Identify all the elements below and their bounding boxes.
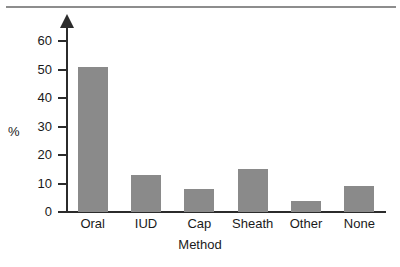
x-axis-title: Method xyxy=(0,237,400,252)
bar xyxy=(184,189,214,212)
x-axis-tick-label: None xyxy=(333,216,386,231)
y-axis-tick-label: 60 xyxy=(0,34,52,47)
bar xyxy=(131,175,161,212)
x-axis-tick-label: Other xyxy=(279,216,332,231)
x-axis-tick-label: Sheath xyxy=(226,216,279,231)
y-axis-title: % xyxy=(8,124,20,139)
y-axis-tick xyxy=(58,97,67,99)
bar xyxy=(78,67,108,212)
y-axis-tick-label: 20 xyxy=(0,148,52,161)
y-axis-line xyxy=(66,26,68,213)
x-axis-tick-label: Oral xyxy=(66,216,119,231)
plot-area: 0102030405060 OralIUDCapSheathOtherNone … xyxy=(0,0,400,267)
y-axis-tick-label: 40 xyxy=(0,91,52,104)
x-axis-line xyxy=(66,211,386,213)
y-axis-tick xyxy=(58,154,67,156)
bar xyxy=(344,186,374,212)
bar xyxy=(238,169,268,212)
y-axis-tick xyxy=(58,69,67,71)
bar-chart-figure: 0102030405060 OralIUDCapSheathOtherNone … xyxy=(0,0,400,267)
y-axis-tick-label: 10 xyxy=(0,177,52,190)
y-axis-tick xyxy=(58,183,67,185)
y-axis-tick-label: 50 xyxy=(0,63,52,76)
y-axis-tick-label: 0 xyxy=(0,205,52,218)
bar xyxy=(291,201,321,212)
x-axis-tick-label: IUD xyxy=(119,216,172,231)
y-axis-tick xyxy=(58,126,67,128)
y-axis-tick xyxy=(58,40,67,42)
x-axis-tick-label: Cap xyxy=(173,216,226,231)
y-axis-tick xyxy=(58,211,67,213)
